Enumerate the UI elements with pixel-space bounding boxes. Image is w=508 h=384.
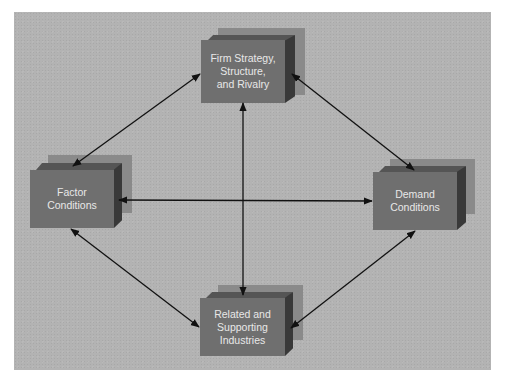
connector-arrows [0, 0, 508, 384]
arrow-top-right [292, 74, 414, 170]
arrow-left-bottom [71, 229, 199, 327]
arrow-left-right [119, 200, 372, 201]
arrow-right-bottom [291, 231, 415, 328]
arrow-top-left [73, 74, 200, 166]
